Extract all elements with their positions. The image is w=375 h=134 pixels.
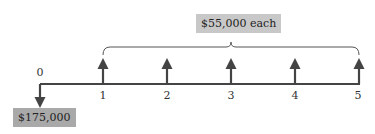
inflow-arrow-2 [162, 58, 173, 84]
period-label-4: 4 [292, 89, 299, 102]
period-label-1: 1 [100, 89, 107, 102]
outflow-amount-label: $175,000 [13, 108, 76, 127]
inflow-arrow-3 [226, 58, 237, 84]
period-label-5: 5 [355, 89, 362, 102]
inflow-amount-label: $55,000 each [196, 14, 281, 33]
period-label-2: 2 [164, 89, 171, 102]
outflow-arrow [35, 84, 46, 108]
inflow-arrows [98, 58, 365, 84]
inflow-arrow-1 [98, 58, 109, 84]
period-label-3: 3 [228, 89, 235, 102]
curly-brace [103, 42, 359, 55]
inflow-arrow-4 [290, 58, 301, 84]
period-label-0: 0 [37, 66, 44, 79]
inflow-arrow-5 [354, 58, 365, 84]
